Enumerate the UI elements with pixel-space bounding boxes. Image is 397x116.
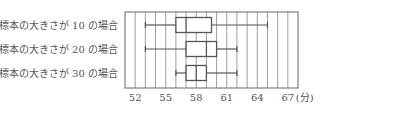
box-plot-row xyxy=(176,66,237,81)
x-axis-tick-labels: 525558616467(分) xyxy=(129,92,314,103)
x-tick-label: 52 xyxy=(129,92,142,103)
box-plot-row xyxy=(145,18,267,33)
row-label: 標本の大きさが 20 の場合 xyxy=(0,43,118,55)
iqr-box xyxy=(176,18,212,33)
row-label: 標本の大きさが 30 の場合 xyxy=(0,67,118,79)
unit-label: (分) xyxy=(296,92,314,103)
x-tick-label: 58 xyxy=(190,92,203,103)
x-tick-label: 67 xyxy=(281,92,294,103)
box-plot-row xyxy=(145,42,237,57)
x-tick-label: 64 xyxy=(251,92,264,103)
iqr-box xyxy=(186,42,217,57)
row-labels: 標本の大きさが 10 の場合標本の大きさが 20 の場合標本の大きさが 30 の… xyxy=(0,19,118,79)
boxplot-chart: 標本の大きさが 10 の場合標本の大きさが 20 の場合標本の大きさが 30 の… xyxy=(0,0,397,116)
x-tick-label: 61 xyxy=(220,92,233,103)
row-label: 標本の大きさが 10 の場合 xyxy=(0,19,118,31)
x-tick-label: 55 xyxy=(159,92,172,103)
box-plots xyxy=(145,18,267,81)
